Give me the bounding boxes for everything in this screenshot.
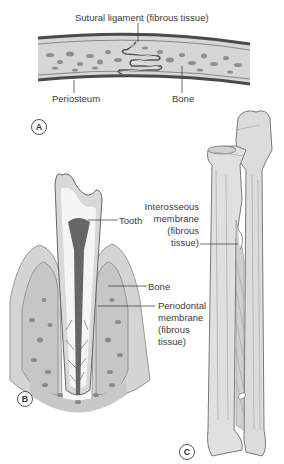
label-periodontal-line2: membrane <box>158 312 203 323</box>
tooth-illustration <box>10 174 150 413</box>
label-interosseous-line3: (fibrous <box>167 225 199 236</box>
label-interosseous-line4: tissue) <box>171 237 199 248</box>
label-sutural-ligament: Sutural ligament (fibrous tissue) <box>75 12 209 23</box>
figure-artwork <box>0 0 284 464</box>
label-periodontal-line1: Periodontal <box>158 300 206 311</box>
panel-badge-b: B <box>17 391 33 407</box>
label-bone-b: Bone <box>148 281 170 292</box>
label-interosseous-line2: membrane <box>154 213 199 224</box>
panel-badge-a: A <box>31 119 47 135</box>
label-periosteum: Periosteum <box>52 93 100 104</box>
label-tooth: Tooth <box>119 215 142 226</box>
label-periodontal-line4: tissue) <box>158 336 186 347</box>
label-interosseous-line1: Interosseous <box>145 201 199 212</box>
panel-badge-c: C <box>179 444 195 460</box>
label-bone-a: Bone <box>172 93 194 104</box>
forearm-bones-illustration <box>208 111 273 456</box>
suture-illustration <box>38 34 250 84</box>
label-periodontal-line3: (fibrous <box>158 324 190 335</box>
